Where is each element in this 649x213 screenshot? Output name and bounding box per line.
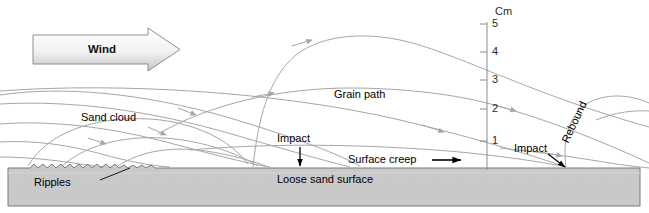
grain-path-label: Grain path: [334, 89, 385, 100]
cm-tick-label-4: 4: [492, 46, 498, 57]
trajectory-hop-1: [28, 119, 248, 166]
trajectory-arrow-launch-up: [292, 40, 312, 46]
trajectory-cloud-3: [0, 123, 270, 167]
ripples-label: Ripples: [34, 177, 71, 188]
surface-creep-label: Surface creep: [348, 154, 416, 165]
cm-tick-label-5: 5: [492, 18, 498, 29]
impact-left-label: Impact: [277, 133, 310, 144]
sand-bed: [8, 164, 640, 206]
cm-tick-label-1: 1: [492, 135, 498, 146]
trajectory-arrow-cloud-3: [88, 138, 106, 144]
trajectory-descent-1: [0, 88, 566, 167]
loose-sand-surface-label: Loose sand surface: [277, 174, 373, 185]
cm-scale: [480, 22, 487, 170]
wind-label: Wind: [88, 44, 116, 56]
saltation-diagram: Wind Cm 5 4 3 2 1 Sand cloud Grain path …: [0, 0, 649, 213]
trajectory-arrow-cloud-1: [178, 108, 196, 115]
cm-tick-label-2: 2: [492, 103, 498, 114]
cm-unit-label: Cm: [495, 6, 512, 17]
trajectory-right-tail: [596, 111, 649, 120]
sand-bed-body: [8, 164, 640, 206]
sand-cloud-label: Sand cloud: [81, 112, 136, 123]
trajectory-arrow-descent-1: [422, 125, 444, 132]
impact-right-label: Impact: [514, 143, 547, 154]
cm-tick-label-3: 3: [492, 74, 498, 85]
trajectory-saltation-launch: [253, 36, 649, 167]
